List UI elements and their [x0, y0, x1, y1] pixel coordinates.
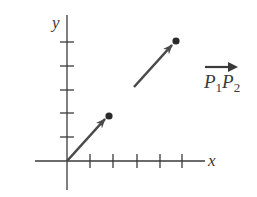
- position-vector-arrow: [67, 119, 105, 161]
- vector-diagram: y x P1P2: [0, 0, 257, 197]
- axes: y x: [35, 13, 216, 190]
- y-axis-label: y: [50, 13, 60, 32]
- endpoint-2-dot: [172, 37, 179, 44]
- x-axis-label: x: [207, 151, 216, 170]
- endpoint-1-dot: [105, 112, 112, 119]
- vector-P1P2-arrow: [134, 45, 172, 87]
- vector-label: P1P2: [203, 71, 240, 95]
